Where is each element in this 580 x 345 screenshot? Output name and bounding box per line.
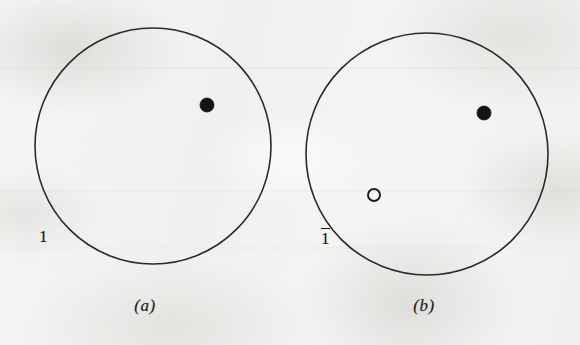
figure-container: 1 1 (a) (b): [0, 0, 580, 345]
figure-drawing-canvas: [0, 0, 580, 345]
panel-a-filled-point: [200, 98, 214, 112]
panel-b-element-label: 1: [321, 228, 330, 247]
panel-a-circle-outline: [35, 28, 271, 264]
panel-a-element-label: 1: [39, 228, 48, 245]
panel-a-caption: (a): [134, 296, 155, 316]
panel-b-circle-outline: [306, 33, 548, 275]
panel-a-element-label-text: 1: [39, 227, 48, 246]
panel-a-group: [35, 28, 271, 264]
panel-b-caption: (b): [413, 296, 434, 316]
panel-b-group: [306, 33, 548, 275]
panel-b-open-point: [368, 189, 380, 201]
panel-b-filled-point: [477, 106, 491, 120]
panel-b-element-label-text: 1: [321, 228, 330, 247]
